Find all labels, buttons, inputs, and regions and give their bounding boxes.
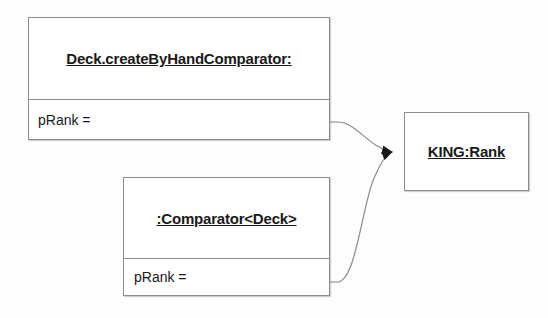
uml-title-row: Deck.createByHandComparator: xyxy=(29,18,329,100)
connector-deck-comparator-to-king-rank xyxy=(338,122,392,152)
uml-object-title: Deck.createByHandComparator: xyxy=(66,50,291,67)
uml-object-title: KING:Rank xyxy=(428,143,505,160)
uml-attribute-row: pRank = xyxy=(29,100,329,139)
uml-object-box-deck-comparator[interactable]: Deck.createByHandComparator: pRank = xyxy=(28,17,330,140)
uml-object-diagram-canvas: Deck.createByHandComparator: pRank = :Co… xyxy=(0,0,548,318)
uml-object-title: :Comparator<Deck> xyxy=(157,210,297,227)
uml-title-row: :Comparator<Deck> xyxy=(124,178,329,259)
uml-attribute-prank: pRank = xyxy=(134,269,187,285)
connector-comparator-deck-to-king-rank xyxy=(338,152,392,282)
uml-attribute-prank: pRank = xyxy=(38,112,91,128)
uml-attribute-row: pRank = xyxy=(124,259,329,295)
uml-object-box-king-rank[interactable]: KING:Rank xyxy=(404,112,529,191)
uml-object-box-comparator-deck[interactable]: :Comparator<Deck> pRank = xyxy=(123,177,330,296)
